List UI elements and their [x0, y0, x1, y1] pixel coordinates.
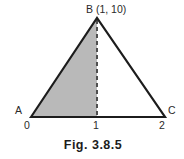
vertex-label-b: B (1, 10): [86, 3, 126, 15]
figure-caption: Fig. 3.8.5: [64, 138, 123, 152]
vertex-label-a: A: [15, 104, 22, 116]
vertex-label-c: C: [168, 104, 176, 116]
triangle-diagram: B (1, 10) A C 0 1 2 Fig. 3.8.5: [0, 0, 184, 159]
tick-label-0: 0: [24, 119, 30, 131]
tick-label-1: 1: [93, 119, 99, 131]
figure-3-8-5: B (1, 10) A C 0 1 2 Fig. 3.8.5: [0, 0, 184, 159]
tick-label-2: 2: [159, 119, 165, 131]
